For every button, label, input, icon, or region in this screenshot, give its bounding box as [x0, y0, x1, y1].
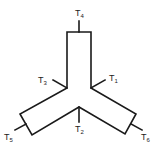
label-t6: T6	[141, 132, 151, 143]
label-t5: T5	[4, 132, 14, 143]
lead-t3	[53, 80, 67, 88]
label-t4: T4	[75, 8, 85, 19]
lead-t6	[131, 124, 142, 130]
y-junction-diagram: T4 T3 T1 T2 T5 T6	[0, 0, 158, 147]
label-t2: T2	[75, 124, 85, 135]
lead-t1	[91, 80, 105, 88]
label-t1: T1	[109, 73, 119, 84]
lead-t5	[15, 124, 26, 130]
label-t3: T3	[38, 75, 48, 86]
